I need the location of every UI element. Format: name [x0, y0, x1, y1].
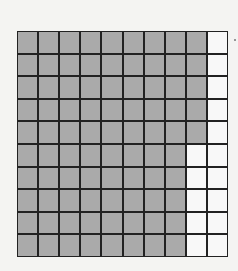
grid-cell-shaded [102, 145, 121, 166]
grid-cell-shaded [166, 235, 185, 256]
grid-cell-shaded [124, 100, 143, 121]
grid-cell-empty [208, 122, 227, 143]
grid-cell-shaded [39, 145, 58, 166]
grid-cell-shaded [60, 235, 79, 256]
grid-cell-shaded [124, 213, 143, 234]
grid-cell-shaded [102, 213, 121, 234]
grid-cell-shaded [18, 100, 37, 121]
grid-cell-shaded [102, 32, 121, 53]
grid-cell-shaded [18, 168, 37, 189]
hundred-grid [17, 31, 228, 257]
stray-mark [234, 39, 236, 41]
grid-cell-shaded [81, 213, 100, 234]
grid-cell-shaded [145, 213, 164, 234]
grid-cell-shaded [166, 77, 185, 98]
grid-cell-empty [208, 77, 227, 98]
grid-cell-shaded [102, 122, 121, 143]
grid-cell-shaded [18, 77, 37, 98]
grid-cell-shaded [18, 122, 37, 143]
grid-cell-shaded [166, 55, 185, 76]
grid-cell-shaded [145, 235, 164, 256]
grid-cell-shaded [124, 55, 143, 76]
grid-cell-shaded [18, 145, 37, 166]
grid-cell-shaded [102, 168, 121, 189]
grid-cell-shaded [39, 190, 58, 211]
grid-cell-shaded [166, 32, 185, 53]
grid-cell-shaded [124, 77, 143, 98]
grid-cell-empty [208, 213, 227, 234]
grid-cell-shaded [60, 168, 79, 189]
grid-cell-empty [208, 190, 227, 211]
grid-cell-shaded [124, 145, 143, 166]
grid-cell-shaded [81, 122, 100, 143]
grid-cell-shaded [166, 213, 185, 234]
grid-cell-shaded [102, 235, 121, 256]
grid-cell-shaded [39, 122, 58, 143]
grid-cell-shaded [145, 32, 164, 53]
grid-cell-shaded [145, 100, 164, 121]
grid-cell-shaded [81, 100, 100, 121]
grid-cell-shaded [18, 213, 37, 234]
grid-cell-shaded [166, 122, 185, 143]
grid-cell-shaded [39, 55, 58, 76]
grid-cell-shaded [60, 190, 79, 211]
grid-cell-shaded [81, 168, 100, 189]
grid-cell-shaded [187, 55, 206, 76]
grid-cell-shaded [39, 77, 58, 98]
grid-cell-shaded [124, 235, 143, 256]
grid-cell-shaded [187, 122, 206, 143]
grid-cell-empty [208, 168, 227, 189]
grid-cell-shaded [102, 77, 121, 98]
grid-cell-shaded [39, 100, 58, 121]
grid-cell-shaded [81, 190, 100, 211]
grid-cell-shaded [81, 235, 100, 256]
grid-cell-empty [208, 100, 227, 121]
grid-cell-empty [208, 55, 227, 76]
grid-cell-shaded [18, 235, 37, 256]
grid-cell-shaded [124, 122, 143, 143]
grid-cell-shaded [60, 100, 79, 121]
grid-cell-empty [208, 32, 227, 53]
grid-cell-shaded [60, 213, 79, 234]
grid-cell-shaded [166, 168, 185, 189]
grid-cell-shaded [102, 190, 121, 211]
grid-cell-shaded [145, 168, 164, 189]
grid-cell-shaded [60, 32, 79, 53]
grid-cell-shaded [18, 55, 37, 76]
grid-cell-shaded [166, 100, 185, 121]
grid-cell-shaded [18, 32, 37, 53]
grid-cell-shaded [187, 77, 206, 98]
grid-cell-shaded [124, 168, 143, 189]
grid-cell-shaded [102, 100, 121, 121]
grid-cell-empty [187, 168, 206, 189]
grid-cell-shaded [145, 190, 164, 211]
grid-cell-shaded [60, 55, 79, 76]
grid-cell-shaded [39, 32, 58, 53]
grid-cell-shaded [39, 213, 58, 234]
grid-cell-empty [187, 145, 206, 166]
grid-cell-shaded [145, 77, 164, 98]
grid-cell-shaded [166, 145, 185, 166]
grid-cell-shaded [145, 122, 164, 143]
grid-cell-shaded [81, 145, 100, 166]
grid-cell-shaded [145, 145, 164, 166]
grid-cell-shaded [60, 145, 79, 166]
grid-cell-shaded [39, 235, 58, 256]
grid-cell-shaded [124, 32, 143, 53]
grid-cell-shaded [102, 55, 121, 76]
grid-cell-shaded [39, 168, 58, 189]
grid-cell-shaded [187, 100, 206, 121]
grid-cell-empty [208, 235, 227, 256]
grid-cell-shaded [166, 190, 185, 211]
grid-cell-shaded [124, 190, 143, 211]
grid-cell-shaded [81, 77, 100, 98]
grid-cell-empty [187, 213, 206, 234]
grid-cell-empty [208, 145, 227, 166]
grid-cell-shaded [60, 122, 79, 143]
grid-cell-shaded [60, 77, 79, 98]
grid-cell-shaded [18, 190, 37, 211]
grid-cell-empty [187, 235, 206, 256]
grid-cell-shaded [81, 32, 100, 53]
grid-cell-empty [187, 190, 206, 211]
grid-cell-shaded [145, 55, 164, 76]
